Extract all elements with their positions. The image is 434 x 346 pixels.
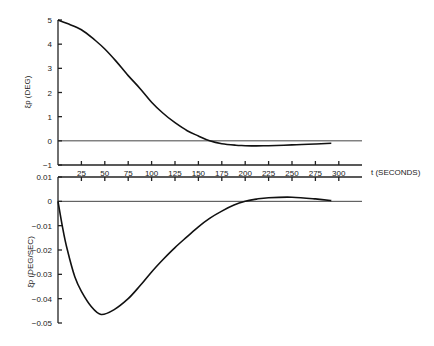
- y-tick-label: 0: [48, 197, 53, 206]
- bottom-chart-xi-p-dot: 0.010−0.01−0.02−0.03−0.04−0.05: [32, 173, 362, 328]
- series-line-xi_p: [58, 20, 331, 146]
- y-tick-label: −1: [43, 161, 53, 170]
- top-y-axis-label: ξp (DEG): [23, 75, 32, 108]
- y-tick-label: −0.01: [32, 222, 53, 231]
- series-line-xi_p_dot: [58, 197, 331, 314]
- x-axis-label: t (SECONDS): [371, 168, 421, 177]
- bottom-y-axis-label: ξ̇p (DEG/SEC): [26, 236, 35, 288]
- top-chart-xi-p: 543210−125507510012515017520022525027530…: [43, 16, 362, 178]
- y-tick-label: 5: [48, 16, 53, 25]
- y-tick-label: 4: [48, 40, 53, 49]
- y-tick-label: 3: [48, 64, 53, 73]
- y-tick-label: −0.05: [32, 319, 53, 328]
- y-tick-label: −0.04: [32, 295, 53, 304]
- chart: 543210−125507510012515017520022525027530…: [0, 0, 434, 346]
- y-tick-label: 0.01: [36, 173, 52, 182]
- y-tick-label: 0: [48, 137, 53, 146]
- y-tick-label: 1: [48, 113, 53, 122]
- y-tick-label: 2: [48, 89, 53, 98]
